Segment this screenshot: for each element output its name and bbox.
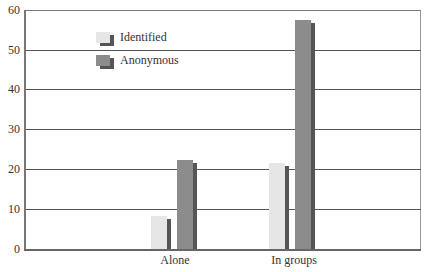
bar-groups-anonymous	[295, 20, 315, 249]
y-tick-60: 60	[0, 3, 20, 18]
bar-groups-identified	[269, 163, 289, 249]
x-label-in-groups: In groups	[262, 253, 326, 268]
gridline-20	[24, 169, 421, 170]
gridline-40	[24, 89, 421, 90]
x-axis	[24, 249, 421, 251]
legend-swatch-anonymous	[96, 55, 110, 66]
gridline-10	[24, 209, 421, 210]
y-tick-10: 10	[0, 202, 20, 217]
legend-label-anonymous: Anonymous	[120, 53, 179, 68]
y-axis	[24, 10, 26, 250]
legend-swatch-identified	[96, 32, 110, 43]
y-tick-40: 40	[0, 82, 20, 97]
gridline-50	[24, 50, 421, 51]
y-tick-0: 0	[0, 242, 20, 257]
bar-alone-identified	[151, 216, 171, 249]
bar-alone-anonymous	[177, 160, 197, 249]
bar-chart: 0 10 20 30 40 50 60 Alone In groups Iden…	[0, 0, 429, 272]
y-tick-20: 20	[0, 162, 20, 177]
gridline-30	[24, 129, 421, 130]
y-tick-50: 50	[0, 43, 20, 58]
legend-label-identified: Identified	[120, 30, 167, 45]
y-tick-30: 30	[0, 122, 20, 137]
x-label-alone: Alone	[150, 253, 200, 268]
